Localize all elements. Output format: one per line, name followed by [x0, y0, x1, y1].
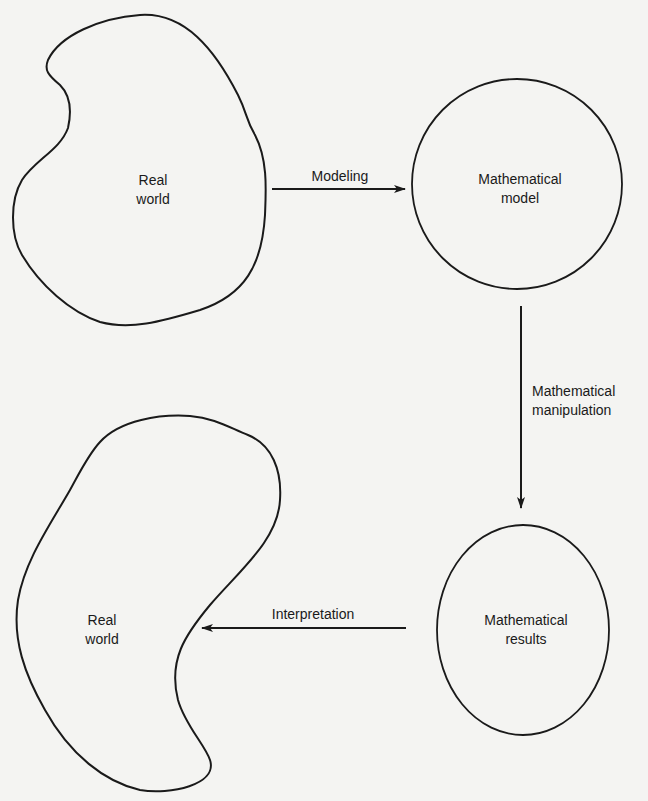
math-model-label: Mathematical model [460, 170, 580, 208]
real-world-bottom-label: Real world [62, 611, 142, 649]
modeling-label: Modeling [290, 167, 390, 186]
modeling-text: Modeling [312, 168, 369, 184]
real-world-top-line1: Real [113, 171, 193, 190]
real-world-bottom-line1: Real [62, 611, 142, 630]
interpretation-label: Interpretation [258, 605, 368, 624]
real-world-top-label: Real world [113, 171, 193, 209]
manipulation-label: Mathematical manipulation [532, 382, 615, 420]
real-world-bottom-shape [17, 416, 281, 792]
interpretation-text: Interpretation [272, 606, 355, 622]
math-results-label: Mathematical results [466, 611, 586, 649]
math-model-line1: Mathematical [460, 170, 580, 189]
math-results-line2: results [466, 630, 586, 649]
real-world-top-line2: world [113, 190, 193, 209]
math-results-line1: Mathematical [466, 611, 586, 630]
manipulation-line1: Mathematical [532, 382, 615, 401]
real-world-bottom-line2: world [62, 630, 142, 649]
manipulation-line2: manipulation [532, 401, 615, 420]
math-model-line2: model [460, 189, 580, 208]
